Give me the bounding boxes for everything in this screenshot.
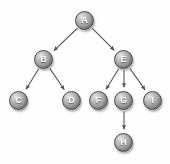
graph-node-c[interactable]: C xyxy=(9,91,28,110)
graph-node-label: I xyxy=(151,96,154,105)
graph-node-label: E xyxy=(120,55,126,64)
graph-node-label: H xyxy=(120,138,127,147)
graph-edge-e-f xyxy=(106,69,118,89)
graph-edge-b-c xyxy=(26,69,38,89)
graph-node-label: B xyxy=(40,55,47,64)
graph-edge-a-b xyxy=(54,28,77,50)
graph-node-label: C xyxy=(15,96,22,105)
graph-node-f[interactable]: F xyxy=(89,91,108,110)
graph-node-i[interactable]: I xyxy=(143,91,162,110)
graph-node-label: G xyxy=(120,96,127,105)
graph-edge-b-d xyxy=(50,69,64,90)
graph-node-label: D xyxy=(68,96,75,105)
graph-edge-a-e xyxy=(92,28,114,50)
graph-node-d[interactable]: D xyxy=(62,91,81,110)
graph-node-label: F xyxy=(96,96,102,105)
graph-node-e[interactable]: E xyxy=(114,50,133,69)
graph-node-a[interactable]: A xyxy=(75,11,94,30)
graph-node-label: A xyxy=(81,16,88,25)
tree-diagram-canvas: ABECDFGIH xyxy=(0,0,170,164)
graph-node-h[interactable]: H xyxy=(114,133,133,152)
graph-edge-e-i xyxy=(130,69,145,90)
graph-node-g[interactable]: G xyxy=(114,91,133,110)
graph-node-b[interactable]: B xyxy=(34,50,53,69)
